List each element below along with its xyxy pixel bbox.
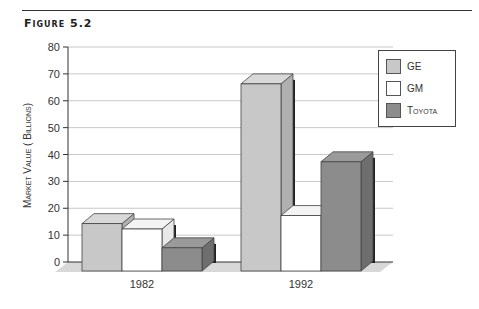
legend-swatch-ge [386, 59, 401, 74]
y-tick-label: 0 [54, 256, 60, 268]
legend: GE GM Toyota [378, 50, 456, 127]
legend-item-gm: GM [386, 81, 423, 96]
bar-ge-1982 [82, 224, 122, 271]
legend-swatch-gm [386, 81, 401, 96]
bar-ge-1992 [241, 84, 281, 271]
bar-gm-1982 [122, 229, 162, 271]
y-tick-label: 70 [48, 68, 60, 80]
legend-item-toyota: Toyota [386, 103, 437, 118]
y-tick-label: 80 [48, 41, 60, 53]
bar-gm-1992 [281, 216, 321, 271]
y-tick-label: 20 [48, 202, 60, 214]
bar-toyota-1992 [321, 162, 361, 271]
x-category-label: 1982 [130, 278, 154, 290]
x-category-label: 1992 [289, 278, 313, 290]
legend-swatch-toyota [386, 103, 401, 118]
legend-label-gm: GM [407, 83, 423, 94]
legend-label-ge: GE [407, 61, 421, 72]
y-tick-label: 10 [48, 229, 60, 241]
bar-toyota-1982 [162, 248, 202, 271]
legend-item-ge: GE [386, 59, 421, 74]
y-tick-label: 60 [48, 95, 60, 107]
y-tick-label: 50 [48, 122, 60, 134]
y-tick-label: 40 [48, 149, 60, 161]
bar-chart-svg: 0102030405060708019821992 [0, 0, 479, 309]
y-tick-label: 30 [48, 175, 60, 187]
legend-label-toyota: Toyota [407, 105, 437, 116]
